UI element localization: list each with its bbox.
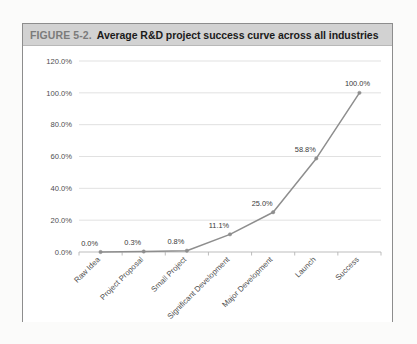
data-point-marker (142, 250, 145, 253)
data-point-label: 58.8% (295, 145, 316, 154)
y-axis-tick-label: 120.0% (46, 57, 72, 66)
data-point-label: 11.1% (209, 221, 230, 230)
y-axis-tick-label: 0.0% (55, 248, 73, 257)
figure-number-label: FIGURE 5-2. (30, 29, 92, 41)
y-axis-tick-label: 20.0% (50, 216, 72, 225)
x-axis-category-label: Launch (293, 255, 317, 279)
chart-plot-area: 0.0%20.0%40.0%60.0%80.0%100.0%120.0%0.0%… (23, 46, 392, 322)
data-point-label: 0.0% (81, 239, 98, 248)
x-axis-category-label: Project Proposal (98, 255, 145, 302)
x-axis-category-label: Raw Idea (72, 255, 102, 285)
figure-title: Average R&D project success curve across… (97, 29, 379, 41)
figure-caption: FIGURE 5-2. Average R&D project success … (23, 24, 392, 46)
y-axis-tick-label: 60.0% (50, 152, 72, 161)
y-axis-tick-label: 80.0% (50, 120, 72, 129)
data-point-marker (99, 250, 102, 253)
figure-frame: FIGURE 5-2. Average R&D project success … (22, 23, 393, 322)
x-axis-category-label: Success (334, 255, 361, 282)
data-point-marker (185, 249, 188, 252)
data-point-marker (271, 211, 274, 214)
y-axis-tick-label: 40.0% (50, 184, 72, 193)
y-axis-tick-label: 100.0% (46, 89, 72, 98)
data-point-marker (228, 233, 231, 236)
series-line (101, 93, 360, 252)
data-point-label: 25.0% (252, 199, 273, 208)
x-axis-category-label: Small Project (149, 254, 188, 293)
line-chart: 0.0%20.0%40.0%60.0%80.0%100.0%120.0%0.0%… (23, 46, 392, 322)
data-point-label: 0.3% (124, 238, 141, 247)
data-point-label: 100.0% (345, 79, 370, 88)
data-point-marker (315, 157, 318, 160)
data-point-marker (358, 91, 361, 94)
data-point-label: 0.8% (167, 237, 184, 246)
